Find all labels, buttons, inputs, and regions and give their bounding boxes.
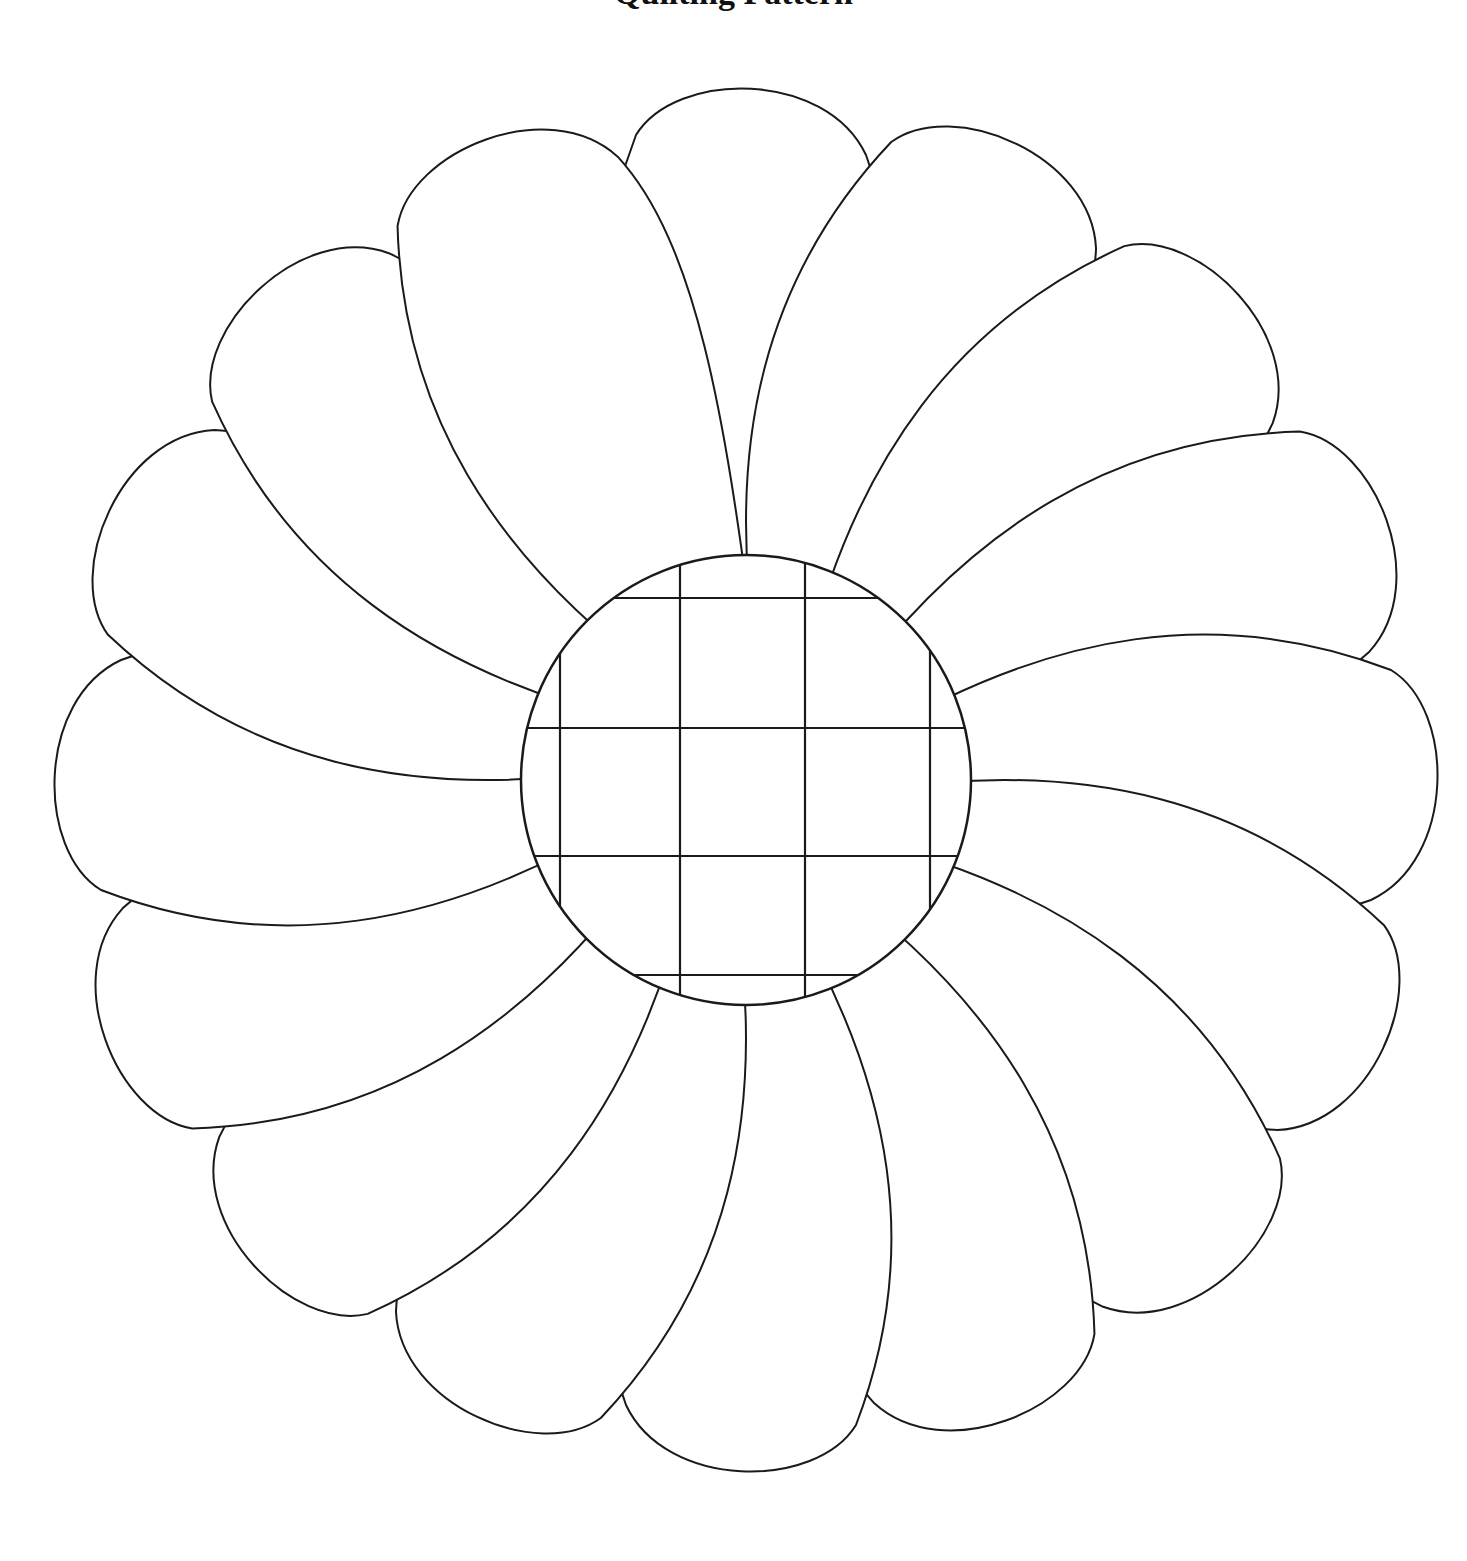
flower-pattern xyxy=(0,0,1467,1561)
flower-center-circle xyxy=(521,555,971,1005)
